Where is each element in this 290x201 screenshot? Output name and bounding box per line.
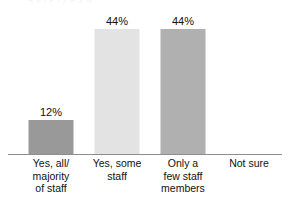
clipped-title-remnant: q g j p , y p y q xyxy=(0,0,290,6)
x-axis-label-line: Not sure xyxy=(216,157,282,170)
x-axis-label-line: few staff xyxy=(150,170,216,183)
x-axis-label-line: members xyxy=(150,182,216,195)
x-axis-label-yes-some: Yes, somestaff xyxy=(84,157,150,182)
x-axis-label-line: staff xyxy=(84,170,150,183)
x-axis-label-not-sure: Not sure xyxy=(216,157,282,170)
bar-chart: q g j p , y p y q 12% 44% 44% Yes, xyxy=(0,0,290,201)
x-axis-label-line: Yes, all/ xyxy=(18,157,84,170)
x-axis-label-line: Only a xyxy=(150,157,216,170)
x-axis-label-line: Yes, some xyxy=(84,157,150,170)
plot-area: 12% 44% 44% xyxy=(0,12,290,154)
x-axis-line xyxy=(8,154,282,155)
clipped-title-text: q g j p , y p y q xyxy=(0,0,92,3)
bar-value-label-0: 12% xyxy=(40,106,62,118)
x-axis-label-line: majority xyxy=(18,170,84,183)
x-axis-label-line: of staff xyxy=(18,182,84,195)
bar-group-yes-some: 44% xyxy=(84,12,150,154)
bar-2 xyxy=(161,29,206,154)
bar-1 xyxy=(95,29,140,154)
bar-group-yes-all-majority: 12% xyxy=(18,12,84,154)
bar-group-only-a-few: 44% xyxy=(150,12,216,154)
bar-value-label-2: 44% xyxy=(172,15,194,27)
bar-group-not-sure xyxy=(216,12,282,154)
bar-value-label-1: 44% xyxy=(106,15,128,27)
x-axis-label-only-a-few: Only afew staffmembers xyxy=(150,157,216,195)
x-axis-category-labels: Yes, all/majorityof staff Yes, somestaff… xyxy=(0,157,290,201)
x-axis-label-yes-all-majority: Yes, all/majorityof staff xyxy=(18,157,84,195)
bar-0 xyxy=(29,120,74,154)
